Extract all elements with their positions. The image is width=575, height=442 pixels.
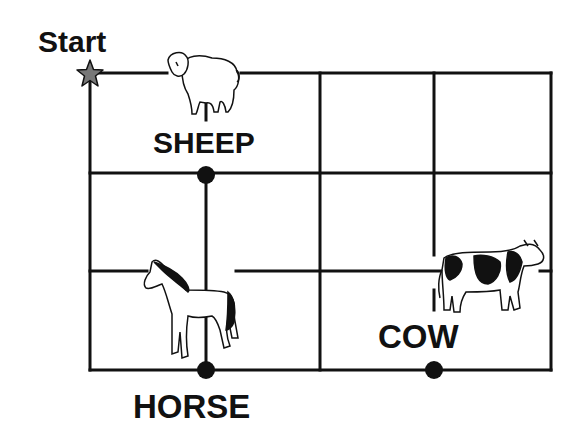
cow-label: COW — [378, 320, 459, 353]
grid-map-diagram: Start SHEEP HORSE COW — [0, 0, 575, 442]
horse-icon — [144, 260, 238, 358]
sheep-label: SHEEP — [153, 128, 255, 158]
sheep-location-dot — [197, 166, 215, 184]
sheep-icon — [168, 53, 239, 114]
cow-location-dot — [425, 361, 443, 379]
start-label: Start — [38, 27, 106, 57]
horse-location-dot — [197, 361, 215, 379]
cow-icon — [439, 240, 544, 312]
grid-lines — [0, 0, 575, 442]
horse-label: HORSE — [133, 390, 250, 423]
